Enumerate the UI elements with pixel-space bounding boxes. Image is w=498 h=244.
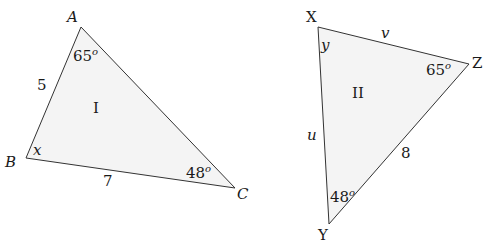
angle-x-label: y — [320, 36, 330, 54]
vertex-c-label: C — [237, 185, 249, 203]
vertex-b-label: B — [4, 153, 16, 171]
side-ab-label: 5 — [37, 76, 47, 94]
side-yz-label: 8 — [401, 144, 411, 162]
triangle-ii-name: II — [352, 84, 364, 102]
side-bc-label: 7 — [103, 172, 113, 190]
triangles-diagram: A B C 65o x 48o 5 7 I X Y Z y 48o 65o v … — [0, 0, 498, 244]
triangle-ii: X Y Z y 48o 65o v u 8 II — [306, 8, 482, 244]
vertex-y-label: Y — [317, 226, 329, 244]
triangle-i-name: I — [93, 99, 99, 117]
angle-y-label: 48o — [330, 187, 355, 206]
vertex-a-label: A — [65, 8, 78, 26]
angle-b-label: x — [33, 141, 42, 159]
side-xy-label: u — [307, 126, 317, 144]
triangle-i: A B C 65o x 48o 5 7 I — [4, 8, 249, 203]
vertex-x-label: X — [306, 8, 317, 26]
side-xz-label: v — [381, 24, 390, 42]
vertex-z-label: Z — [472, 54, 482, 72]
